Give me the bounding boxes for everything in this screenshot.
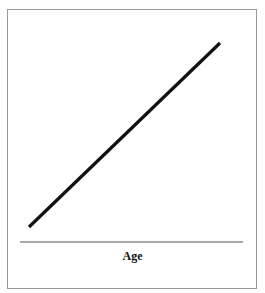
trend-line <box>29 43 220 227</box>
x-axis-label: Age <box>0 249 265 264</box>
